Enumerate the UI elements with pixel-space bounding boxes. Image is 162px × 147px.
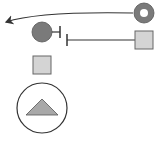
donut-node [134, 3, 154, 23]
square-node-right [135, 31, 153, 49]
inhibition-edge-2 [67, 34, 135, 46]
activation-arrow [6, 13, 133, 22]
inhibition-edge-1 [52, 26, 60, 38]
triangle-in-circle-node [17, 83, 67, 133]
square-node-left [33, 56, 51, 74]
dark-circle-node [32, 22, 52, 42]
diagram-canvas [0, 0, 162, 147]
